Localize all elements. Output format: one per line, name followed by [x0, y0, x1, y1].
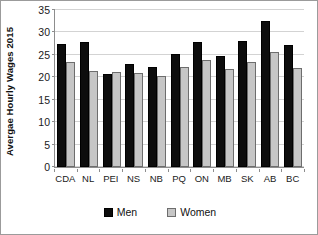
x-axis-tick-label: PQ — [168, 173, 191, 184]
bar-women-bc — [293, 68, 302, 167]
y-axis-tick-label: 15 — [38, 94, 50, 106]
x-axis-tick-label: AB — [259, 173, 282, 184]
bar-group — [100, 10, 123, 167]
y-axis-title: Avergae Hourly Wages 2015 — [1, 1, 19, 181]
y-axis-tick-label: 0 — [44, 161, 50, 173]
men-swatch-icon — [104, 208, 113, 217]
x-axis-tick-mark — [122, 169, 123, 172]
bar-women-ns — [134, 73, 143, 167]
x-axis-tick-label: NS — [122, 173, 145, 184]
x-axis-tick-mark — [99, 169, 100, 172]
x-axis-tick-label: MB — [213, 173, 236, 184]
x-axis-tick-label: ON — [190, 173, 213, 184]
x-axis-tick-labels: CDANLPEINSNBPQONMBSKABBC — [54, 173, 304, 184]
bar-women-cda — [66, 62, 75, 167]
bar-men-pq — [171, 54, 180, 167]
x-axis-tick-mark — [54, 169, 55, 172]
legend-label-men: Men — [117, 206, 137, 218]
bar-women-nb — [157, 76, 166, 167]
bar-women-pq — [180, 67, 189, 167]
plot-area: 05101520253035 — [54, 10, 304, 168]
bar-men-nb — [148, 67, 157, 167]
bar-men-nl — [80, 42, 89, 167]
y-axis-tick-label: 20 — [38, 71, 50, 83]
x-axis-tick-label: NB — [145, 173, 168, 184]
bar-women-nl — [89, 71, 98, 167]
x-axis-tick-mark — [77, 169, 78, 172]
bar-men-bc — [284, 45, 293, 167]
bar-men-sk — [238, 41, 247, 167]
bar-group — [78, 10, 101, 167]
y-axis-title-text: Avergae Hourly Wages 2015 — [5, 26, 16, 155]
x-axis-tick-mark — [190, 169, 191, 172]
x-axis-tick-label: CDA — [54, 173, 77, 184]
bar-women-mb — [225, 69, 234, 167]
chart-legend: Men Women — [1, 206, 318, 218]
bar-women-sk — [247, 62, 256, 167]
y-axis-tick-label: 30 — [38, 26, 50, 38]
bar-women-pei — [112, 72, 121, 167]
bar-group — [55, 10, 78, 167]
bar-men-on — [193, 42, 202, 167]
y-axis-tick-label: 25 — [38, 49, 50, 61]
y-axis-tick-label: 35 — [38, 4, 50, 16]
x-axis-tick-mark — [259, 169, 260, 172]
x-axis-tick-label: NL — [77, 173, 100, 184]
x-axis-tick-mark — [213, 169, 214, 172]
x-axis-tick-mark — [304, 169, 305, 172]
bar-men-ab — [261, 21, 270, 167]
bar-chart-figure: Avergae Hourly Wages 2015 05101520253035… — [0, 0, 318, 235]
bar-men-cda — [57, 44, 66, 167]
x-axis-tick-label: PEI — [99, 173, 122, 184]
legend-label-women: Women — [180, 206, 216, 218]
bar-men-pei — [103, 74, 112, 167]
bar-group — [281, 10, 304, 167]
legend-entry-men: Men — [104, 206, 137, 218]
x-axis-tick-mark — [236, 169, 237, 172]
bar-group — [236, 10, 259, 167]
x-axis-tick-mark — [281, 169, 282, 172]
x-axis-tick-label: BC — [281, 173, 304, 184]
women-swatch-icon — [167, 208, 176, 217]
bar-group — [191, 10, 214, 167]
bar-men-mb — [216, 56, 225, 167]
bar-group — [259, 10, 282, 167]
x-axis-tick-mark — [168, 169, 169, 172]
legend-entry-women: Women — [167, 206, 216, 218]
x-axis-tick-mark — [145, 169, 146, 172]
bar-group — [168, 10, 191, 167]
bar-group — [213, 10, 236, 167]
bar-women-ab — [270, 52, 279, 167]
bar-men-ns — [125, 64, 134, 167]
y-axis-tick-label: 10 — [38, 116, 50, 128]
bar-women-on — [202, 60, 211, 167]
y-axis-tick-label: 5 — [44, 139, 50, 151]
x-axis-tick-label: SK — [236, 173, 259, 184]
bars-layer — [55, 10, 304, 167]
bar-group — [123, 10, 146, 167]
bar-group — [146, 10, 169, 167]
